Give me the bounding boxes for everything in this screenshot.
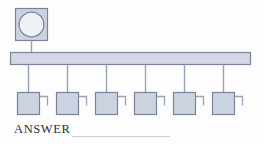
answer-blank-rule[interactable] bbox=[72, 136, 170, 137]
workstation-node[interactable] bbox=[96, 93, 126, 115]
workstation-node[interactable] bbox=[213, 93, 243, 115]
workstation-tab-icon bbox=[196, 97, 204, 106]
workstation-tab-icon bbox=[235, 97, 243, 106]
workstation-box bbox=[18, 93, 40, 115]
workstation-tab-icon bbox=[79, 97, 87, 106]
workstation-tab-icon bbox=[157, 97, 165, 106]
workstation-tab-icon bbox=[40, 97, 48, 106]
workstation-node[interactable] bbox=[174, 93, 204, 115]
network-bus[interactable] bbox=[11, 53, 251, 65]
workstation-node[interactable] bbox=[18, 93, 48, 115]
workstation-node[interactable] bbox=[135, 93, 165, 115]
workstation-box bbox=[174, 93, 196, 115]
workstation-box bbox=[213, 93, 235, 115]
workstation-tab-icon bbox=[118, 97, 126, 106]
answer-label: ANSWER bbox=[14, 122, 70, 137]
answer-row: ANSWER bbox=[0, 120, 264, 144]
server-circle-icon bbox=[19, 12, 44, 37]
server-node[interactable] bbox=[16, 9, 48, 41]
page-root: ANSWER bbox=[0, 0, 264, 144]
workstation-node[interactable] bbox=[57, 93, 87, 115]
network-diagram-canvas bbox=[0, 0, 264, 120]
node-connectors bbox=[29, 65, 224, 93]
network-diagram bbox=[0, 0, 264, 120]
workstation-box bbox=[96, 93, 118, 115]
workstation-box bbox=[135, 93, 157, 115]
workstation-box bbox=[57, 93, 79, 115]
